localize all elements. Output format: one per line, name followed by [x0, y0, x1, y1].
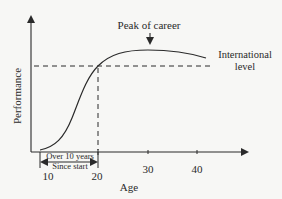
x-axis-title: Age: [120, 181, 138, 193]
y-axis-title: Performance: [11, 68, 23, 124]
span-bottom-label: Since start: [52, 161, 88, 171]
tick-label-30: 30: [143, 163, 155, 175]
international-label-line2: level: [235, 61, 255, 72]
peak-label: Peak of career: [118, 19, 181, 31]
tick-label-10: 10: [43, 170, 55, 182]
international-label-line1: International: [218, 49, 272, 60]
tick-label-20: 20: [92, 170, 104, 182]
diagram-canvas: Peak of career International level Over …: [0, 0, 282, 199]
career-performance-diagram: Peak of career International level Over …: [0, 0, 282, 199]
tick-label-40: 40: [192, 163, 204, 175]
span-top-label: Over 10 years: [46, 151, 94, 161]
performance-curve: [40, 50, 206, 150]
